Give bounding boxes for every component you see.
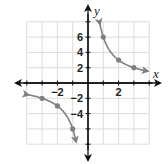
x-tick-label: 2: [116, 86, 122, 98]
data-point: [116, 57, 121, 62]
data-point: [131, 65, 136, 70]
axes: [16, 6, 160, 160]
y-tick-label: 2: [77, 62, 83, 74]
data-point: [101, 35, 106, 40]
x-tick-label: −2: [51, 86, 64, 98]
y-axis-label: y: [92, 3, 100, 18]
curve-right-branch: [100, 24, 148, 71]
y-tick-label: −4: [70, 108, 83, 120]
data-point: [70, 126, 75, 131]
y-tick-label: 4: [77, 46, 84, 58]
curve-left-branch: [28, 95, 76, 142]
coordinate-plane: −22642−2−4 x y: [0, 0, 168, 164]
y-tick-label: 6: [77, 31, 83, 43]
data-point: [55, 103, 60, 108]
tick-labels: −22642−2−4: [51, 31, 122, 120]
x-axis-label: x: [152, 66, 159, 81]
data-point: [40, 96, 45, 101]
y-tick-label: −2: [70, 92, 83, 104]
